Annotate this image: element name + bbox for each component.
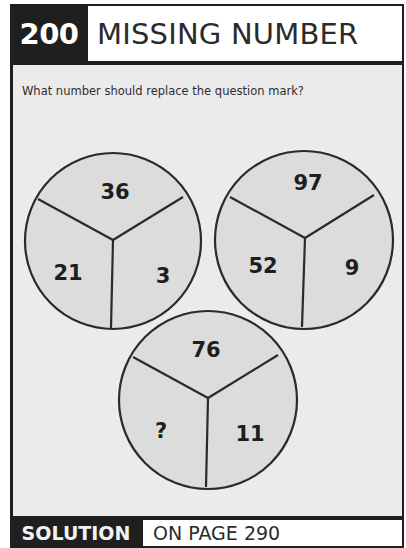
segment-top-value: 97 bbox=[293, 171, 322, 195]
solution-label: SOLUTION bbox=[10, 518, 142, 548]
segment-right-value: 11 bbox=[235, 422, 264, 446]
segment-top-value: 76 bbox=[191, 338, 220, 362]
circle-3: 76 ? 11 bbox=[119, 311, 297, 489]
missing-value-marker: ? bbox=[155, 419, 167, 443]
circle-1: 36 21 3 bbox=[25, 153, 201, 329]
segment-right-value: 9 bbox=[345, 256, 360, 280]
segment-left-value: 52 bbox=[248, 254, 277, 278]
segment-left-value: 21 bbox=[53, 261, 82, 285]
solution-page-reference: ON PAGE 290 bbox=[143, 520, 402, 546]
segment-top-value: 36 bbox=[100, 180, 129, 204]
circle-2: 97 52 9 bbox=[215, 151, 393, 329]
segment-right-value: 3 bbox=[156, 264, 171, 288]
puzzle-figure: 36 21 3 97 52 9 76 ? 11 bbox=[0, 0, 406, 548]
